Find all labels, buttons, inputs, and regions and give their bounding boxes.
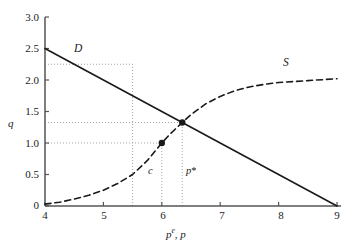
y-tick-label-2: 2.0 (13, 75, 39, 86)
y-tick-label-1: 1.0 (13, 138, 39, 149)
curves-group (45, 49, 337, 207)
x-tick-label-8: 8 (271, 210, 291, 221)
p-star-asterisk: * (191, 165, 196, 176)
x-tick-label-6: 6 (153, 210, 173, 221)
axes-group (45, 17, 341, 206)
curve-S (45, 79, 337, 204)
y-tick-label-3: 3.0 (13, 12, 39, 23)
y-tick-label-15: 1.5 (13, 106, 39, 117)
marker-c (159, 140, 165, 146)
demand-curve-label: D (74, 43, 82, 55)
x-tick-label-5: 5 (94, 210, 114, 221)
y-tick-label-05: 0.5 (13, 169, 39, 180)
x-tick-label-7: 7 (212, 210, 232, 221)
point-label-c: c (148, 166, 153, 177)
marker-p-star (179, 119, 185, 125)
x-tick-label-9: 9 (327, 210, 347, 221)
supply-curve-label: S (283, 57, 289, 69)
x-axis-title-rest: , p (175, 228, 186, 240)
economics-supply-demand-figure: 3.0 2.5 2.0 1.5 1.0 0.5 0 4 5 6 7 8 9 q … (0, 0, 359, 245)
x-axis-title: pe, p (166, 227, 186, 240)
y-tick-label-25: 2.5 (13, 43, 39, 54)
curve-D (45, 49, 337, 207)
y-axis-title: q (8, 118, 14, 129)
point-label-p-star: p* (186, 166, 197, 177)
chart-canvas (0, 0, 359, 245)
x-tick-label-4: 4 (35, 210, 55, 221)
